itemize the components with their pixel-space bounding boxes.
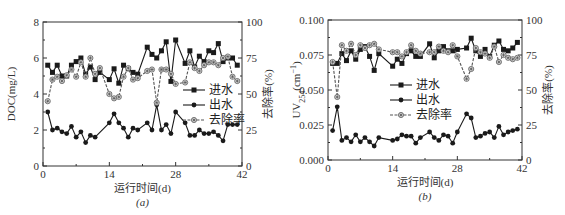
y-tick-label: 6 xyxy=(34,52,40,64)
x-axis-title: 运行时间(d) xyxy=(397,176,454,189)
legend-label: 去除率 xyxy=(416,107,452,122)
y-right-tick-label: 50 xyxy=(526,84,538,96)
panel-caption: (b) xyxy=(419,190,432,203)
y-tick-label: 0.000 xyxy=(299,154,324,166)
y-right-tick-label: 0 xyxy=(246,160,252,172)
x-tick-label: 0 xyxy=(40,168,46,180)
x-tick-label: 28 xyxy=(452,162,464,174)
panel-caption: (a) xyxy=(136,196,149,209)
y-right-tick-label: 75 xyxy=(526,49,538,61)
x-tick-label: 0 xyxy=(325,162,331,174)
x-tick-label: 14 xyxy=(104,168,116,180)
y-axis-title: DOC(mg/L) xyxy=(5,66,18,121)
legend-label: 去除率 xyxy=(209,112,245,127)
y-tick-label: 0.075 xyxy=(299,49,324,61)
chart-panel-a: 0142842024680255075100DOC(mg/L)去除率(%)运行时… xyxy=(0,0,280,215)
x-axis-title: 运行时间(d) xyxy=(114,182,171,195)
x-tick-label: 28 xyxy=(170,168,182,180)
y-tick-label: 0.100 xyxy=(299,14,324,26)
y-tick-label: 4 xyxy=(34,88,40,100)
y-tick-label: 8 xyxy=(34,16,40,28)
y-right-axis-title: 去除率(%) xyxy=(541,65,555,115)
y-right-tick-label: 100 xyxy=(526,14,543,26)
x-tick-label: 14 xyxy=(387,162,399,174)
y-tick-label: 0 xyxy=(34,160,40,172)
legend: 进水出水去除率 xyxy=(390,78,452,122)
legend-label: 进水 xyxy=(209,83,233,97)
y-right-tick-label: 75 xyxy=(246,52,258,64)
legend: 进水出水去除率 xyxy=(183,83,245,127)
y-right-tick-label: 25 xyxy=(526,119,538,131)
uv254-chart: 01428420.0000.0250.0500.0750.10002550751… xyxy=(280,0,565,215)
y-right-tick-label: 25 xyxy=(246,124,258,136)
y-right-tick-label: 50 xyxy=(246,88,258,100)
doc-chart: 0142842024680255075100DOC(mg/L)去除率(%)运行时… xyxy=(0,0,280,215)
chart-panel-b: 01428420.0000.0250.0500.0750.10002550751… xyxy=(280,0,565,215)
y-right-axis-title: 去除率(%) xyxy=(261,69,275,119)
legend-label: 出水 xyxy=(209,98,233,112)
legend-label: 出水 xyxy=(416,93,440,107)
legend-label: 进水 xyxy=(416,78,440,92)
y-right-tick-label: 0 xyxy=(526,154,532,166)
y-tick-label: 0.025 xyxy=(299,119,324,131)
y-tick-label: 2 xyxy=(34,124,40,136)
y-right-tick-label: 100 xyxy=(246,16,263,28)
